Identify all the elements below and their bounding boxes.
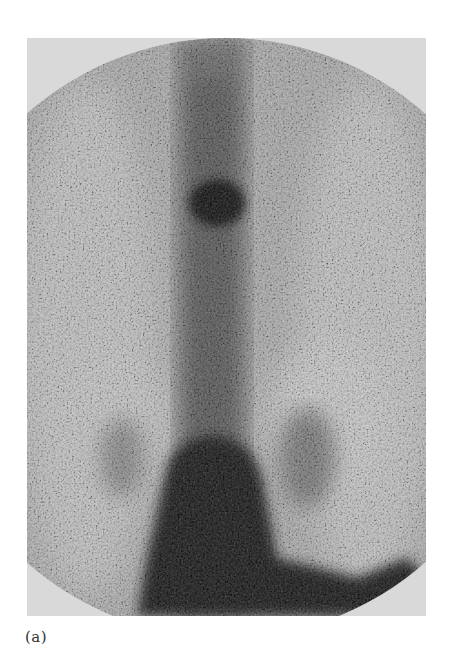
scintigraphy-image xyxy=(27,38,426,616)
scintigraphy-image-frame xyxy=(27,38,426,616)
figure: (a) xyxy=(0,0,449,657)
figure-caption: (a) xyxy=(25,628,47,646)
